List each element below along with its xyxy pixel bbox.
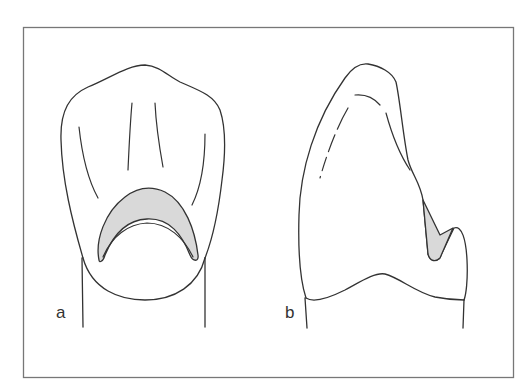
- panel-label-b: b: [285, 303, 294, 322]
- tooth-a-ridge-line-1: [79, 127, 98, 198]
- tooth-b-root-right: [463, 300, 464, 328]
- panel-label-a: a: [56, 303, 66, 322]
- tooth-a-ridge-line-3: [155, 103, 163, 167]
- tooth-a-shaded-area: [98, 188, 198, 261]
- tooth-b-dashed-arc: [355, 95, 380, 105]
- tooth-b-root-left: [305, 298, 307, 328]
- tooth-a-crown-outline: [61, 65, 225, 258]
- tooth-a-cervical-line: [83, 258, 205, 300]
- tooth-b-shaded-area: [423, 200, 453, 261]
- tooth-diagram-figure: a b: [0, 0, 524, 385]
- tooth-b-cervical-line: [306, 274, 464, 300]
- tooth-a-ridge-line-2: [128, 103, 132, 170]
- panel-a: a: [56, 65, 225, 327]
- panel-b: b: [285, 64, 467, 328]
- tooth-b-crown-outline: [299, 64, 468, 300]
- tooth-b-dashed-line: [320, 108, 348, 178]
- tooth-a-root-left: [82, 258, 83, 327]
- figure-frame: [24, 28, 514, 378]
- tooth-a-ridge-line-4: [192, 134, 205, 205]
- tooth-b-internal-line: [386, 113, 410, 170]
